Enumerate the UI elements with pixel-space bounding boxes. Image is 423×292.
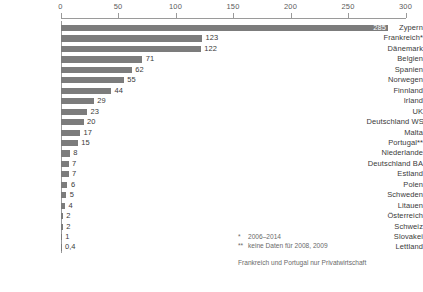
bar <box>61 224 63 230</box>
x-axis-tick-label: 150 <box>226 2 239 11</box>
bar-category-label: Irland <box>367 96 423 107</box>
footnote-3: Frankreich und Portugal nur Privatwirtsc… <box>238 258 418 267</box>
bar <box>61 171 69 177</box>
bar-value-label: 8 <box>73 148 77 159</box>
bar <box>61 35 202 41</box>
bar-value-label: 123 <box>205 33 218 44</box>
bar-value-label: 4 <box>69 201 73 212</box>
bar <box>61 130 81 136</box>
x-axis-tick-label: 250 <box>341 2 354 11</box>
bar <box>61 161 69 167</box>
footnote-2: **keine Daten für 2008, 2009 <box>238 241 418 250</box>
bar-value-label: 55 <box>127 75 136 86</box>
plot-area: Zypern285Frankreich*123Dänemark122Belgie… <box>0 21 423 253</box>
bar-value-label: 29 <box>97 96 106 107</box>
bar-row: Irland29 <box>0 96 423 107</box>
bar-row: Niederlande8 <box>0 148 423 159</box>
bar <box>61 67 132 73</box>
bar-category-label: Estland <box>367 169 423 180</box>
bar <box>61 56 143 62</box>
bar <box>61 182 68 188</box>
bar-row: Österreich2 <box>0 211 423 222</box>
bar-value-label: 0,4 <box>65 242 76 253</box>
bar <box>61 109 87 115</box>
bar-row: Frankreich*123 <box>0 33 423 44</box>
bar-row: Portugal**15 <box>0 138 423 149</box>
bar <box>61 203 66 209</box>
bar-value-label: 7 <box>72 159 76 170</box>
bar-row: Finnland44 <box>0 86 423 97</box>
bar <box>61 192 67 198</box>
bar-category-label: UK <box>367 107 423 118</box>
bar-category-label: Dänemark <box>367 44 423 55</box>
bar-row: Dänemark122 <box>0 44 423 55</box>
bar-row: Belgien71 <box>0 54 423 65</box>
bar-row: Malta17 <box>0 128 423 139</box>
bar-category-label: Niederlande <box>367 148 423 159</box>
bar-value-label: 6 <box>71 180 75 191</box>
bar-value-label: 23 <box>90 107 99 118</box>
bar <box>61 234 62 240</box>
x-axis-tick-label: 100 <box>169 2 182 11</box>
bar <box>61 46 201 52</box>
bar-row: Zypern285 <box>0 23 423 34</box>
bar-value-label: 17 <box>84 128 93 139</box>
bar-row: Litauen4 <box>0 201 423 212</box>
bar-category-label: Litauen <box>367 201 423 212</box>
bar <box>61 77 124 83</box>
footnotes: *2006–2014 **keine Daten für 2008, 2009 … <box>238 232 418 267</box>
x-axis-tick-label: 0 <box>58 2 62 11</box>
bar-row: Deutschland BA7 <box>0 159 423 170</box>
bar <box>61 88 112 94</box>
bar-category-label: Malta <box>367 128 423 139</box>
bar-row: UK23 <box>0 107 423 118</box>
bar-category-label: Belgien <box>367 54 423 65</box>
bar-row: Schweden5 <box>0 190 423 201</box>
bar-category-label: Portugal** <box>367 138 423 149</box>
bar-category-label: Norwegen <box>367 75 423 86</box>
bar-category-label: Deutschland BA <box>367 159 423 170</box>
bar-category-label: Deutschland WSI <box>367 117 423 128</box>
bar-row: Schweiz2 <box>0 222 423 233</box>
bar-value-label: 7 <box>72 169 76 180</box>
footnote-2-marker: ** <box>238 241 248 250</box>
x-axis-tick-label: 200 <box>284 2 297 11</box>
bar-value-label: 2 <box>66 222 70 233</box>
bar-value-label: 2 <box>66 211 70 222</box>
bar <box>61 119 84 125</box>
bar-row: Estland7 <box>0 169 423 180</box>
bar <box>61 244 62 250</box>
footnote-1-text: 2006–2014 <box>248 233 281 240</box>
x-axis-tick-label: 300 <box>399 2 412 11</box>
x-axis-line <box>61 18 406 19</box>
bar-value-label: 285 <box>373 23 386 34</box>
footnote-1-marker: * <box>238 232 248 241</box>
bar <box>61 140 78 146</box>
bar-value-label: 71 <box>146 54 155 65</box>
bar-category-label: Frankreich* <box>367 33 423 44</box>
bar-category-label: Polen <box>367 180 423 191</box>
bar-value-label: 122 <box>204 44 217 55</box>
x-axis-tick-mark <box>406 13 407 18</box>
bar-row: Deutschland WSI20 <box>0 117 423 128</box>
bar-row: Norwegen55 <box>0 75 423 86</box>
bar-value-label: 1 <box>65 232 69 243</box>
bar-row: Spanien62 <box>0 65 423 76</box>
bar <box>61 150 70 156</box>
bar-chart: 050100150200250300 Zypern285Frankreich*1… <box>0 0 423 292</box>
bar-value-label: 15 <box>81 138 90 149</box>
bar-row: Polen6 <box>0 180 423 191</box>
bar-category-label: Finnland <box>367 86 423 97</box>
bar-category-label: Österreich <box>367 211 423 222</box>
footnote-2-text: keine Daten für 2008, 2009 <box>248 242 328 249</box>
x-axis-tick-label: 50 <box>114 2 123 11</box>
bar-value-label: 20 <box>87 117 96 128</box>
bar-value-label: 44 <box>115 86 124 97</box>
footnote-1: *2006–2014 <box>238 232 418 241</box>
bar-category-label: Spanien <box>367 65 423 76</box>
bar <box>61 25 389 31</box>
bar <box>61 98 94 104</box>
x-axis: 050100150200250300 <box>0 0 423 22</box>
bar-value-label: 5 <box>70 190 74 201</box>
bar <box>61 213 63 219</box>
